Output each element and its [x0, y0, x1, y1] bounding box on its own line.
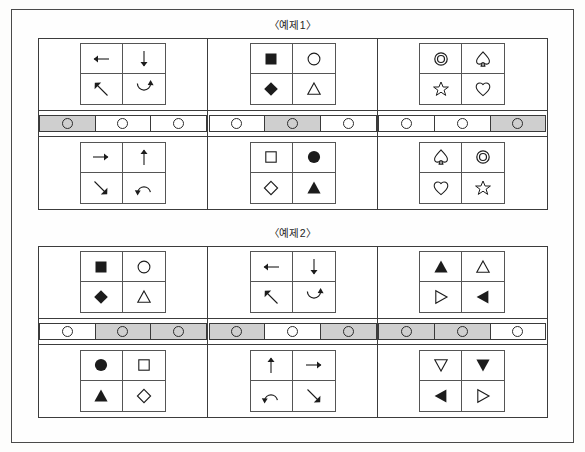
- bar-cell-shaded: [379, 324, 435, 339]
- worksheet-page: 〈예제1〉 〈예제2〉: [0, 0, 585, 452]
- top-glyph-grid: [419, 43, 505, 105]
- triangle-up-hollow-icon: [301, 76, 327, 102]
- bottom-grid-row: [378, 137, 547, 209]
- diamond-hollow-icon: [258, 175, 284, 201]
- diamond-filled-icon: [258, 76, 284, 102]
- double-circle-icon: [470, 144, 496, 170]
- arrow-down-icon: [131, 46, 157, 72]
- bar-cell-shaded: [210, 324, 266, 339]
- circle-icon: [401, 326, 412, 337]
- arrow-up-left-icon: [258, 284, 284, 310]
- glyph-cell: [81, 173, 123, 203]
- triangle-up-filled-icon: [88, 383, 114, 409]
- example-block-2: 〈예제2〉: [11, 228, 574, 418]
- circle-filled-icon: [88, 352, 114, 378]
- top-glyph-grid: [80, 43, 166, 105]
- bottom-grid-row: [39, 345, 208, 417]
- arrow-right-icon: [301, 352, 327, 378]
- bar-cell-plain: [40, 324, 96, 339]
- glyph-cell: [81, 351, 123, 381]
- glyph-cell: [81, 143, 123, 173]
- arrow-down-right-icon: [88, 175, 114, 201]
- spade-hollow-icon: [428, 144, 454, 170]
- diamond-hollow-icon: [131, 383, 157, 409]
- bar-cell-shaded: [151, 324, 206, 339]
- bar-cell-shaded: [96, 324, 152, 339]
- circle-indicator-bar: [209, 323, 377, 340]
- bar-cell-shaded: [491, 116, 546, 131]
- bar-cell-shaded: [40, 116, 96, 131]
- top-grid-row: [39, 39, 208, 111]
- example-column: [377, 247, 547, 417]
- arrow-up-icon: [258, 352, 284, 378]
- bar-row: [39, 318, 208, 345]
- heart-hollow-icon: [428, 175, 454, 201]
- example-column: [39, 39, 208, 209]
- glyph-cell: [293, 173, 335, 203]
- circle-icon: [401, 118, 412, 129]
- star-hollow-icon: [428, 76, 454, 102]
- circle-hollow-icon: [131, 254, 157, 280]
- bar-cell-plain: [151, 116, 206, 131]
- glyph-cell: [293, 252, 335, 282]
- triangle-down-hollow-icon: [428, 352, 454, 378]
- circle-indicator-bar: [39, 323, 207, 340]
- bottom-grid-row: [39, 137, 208, 209]
- example-2-body: [38, 246, 548, 418]
- glyph-cell: [123, 351, 165, 381]
- glyph-cell: [81, 381, 123, 411]
- glyph-cell: [251, 282, 293, 312]
- square-hollow-icon: [131, 352, 157, 378]
- circle-icon: [117, 326, 128, 337]
- circle-icon: [512, 118, 523, 129]
- arrow-up-left-icon: [88, 76, 114, 102]
- arrow-rotate-cw-icon: [301, 284, 327, 310]
- circle-filled-icon: [301, 144, 327, 170]
- glyph-cell: [123, 74, 165, 104]
- glyph-cell: [462, 44, 504, 74]
- bar-row: [208, 318, 377, 345]
- glyph-cell: [293, 143, 335, 173]
- example-2-title: 〈예제2〉: [11, 228, 574, 239]
- glyph-cell: [462, 252, 504, 282]
- glyph-cell: [420, 173, 462, 203]
- glyph-cell: [293, 44, 335, 74]
- glyph-cell: [420, 44, 462, 74]
- triangle-up-filled-icon: [301, 175, 327, 201]
- top-grid-row: [39, 247, 208, 319]
- circle-indicator-bar: [39, 115, 207, 132]
- glyph-cell: [293, 74, 335, 104]
- example-block-1: 〈예제1〉: [11, 20, 574, 210]
- glyph-cell: [420, 351, 462, 381]
- arrow-down-right-icon: [301, 383, 327, 409]
- top-grid-row: [378, 39, 547, 111]
- bar-cell-plain: [265, 324, 321, 339]
- glyph-cell: [251, 351, 293, 381]
- heart-hollow-icon: [470, 76, 496, 102]
- triangle-up-hollow-icon: [470, 254, 496, 280]
- triangle-up-hollow-icon: [131, 284, 157, 310]
- circle-icon: [62, 118, 73, 129]
- glyph-cell: [293, 381, 335, 411]
- arrow-right-icon: [88, 144, 114, 170]
- circle-icon: [173, 118, 184, 129]
- glyph-cell: [420, 282, 462, 312]
- triangle-right-hollow-icon: [428, 284, 454, 310]
- bottom-grid-row: [208, 137, 377, 209]
- example-column: [207, 247, 377, 417]
- top-glyph-grid: [80, 251, 166, 313]
- bottom-glyph-grid: [250, 350, 336, 412]
- glyph-cell: [123, 173, 165, 203]
- glyph-cell: [81, 252, 123, 282]
- glyph-cell: [251, 44, 293, 74]
- glyph-cell: [420, 74, 462, 104]
- example-1-body: [38, 38, 548, 210]
- circle-icon: [117, 118, 128, 129]
- glyph-cell: [462, 74, 504, 104]
- circle-icon: [231, 326, 242, 337]
- top-grid-row: [378, 247, 547, 319]
- circle-icon: [287, 326, 298, 337]
- triangle-up-filled-icon: [428, 254, 454, 280]
- glyph-cell: [251, 74, 293, 104]
- circle-indicator-bar: [209, 115, 377, 132]
